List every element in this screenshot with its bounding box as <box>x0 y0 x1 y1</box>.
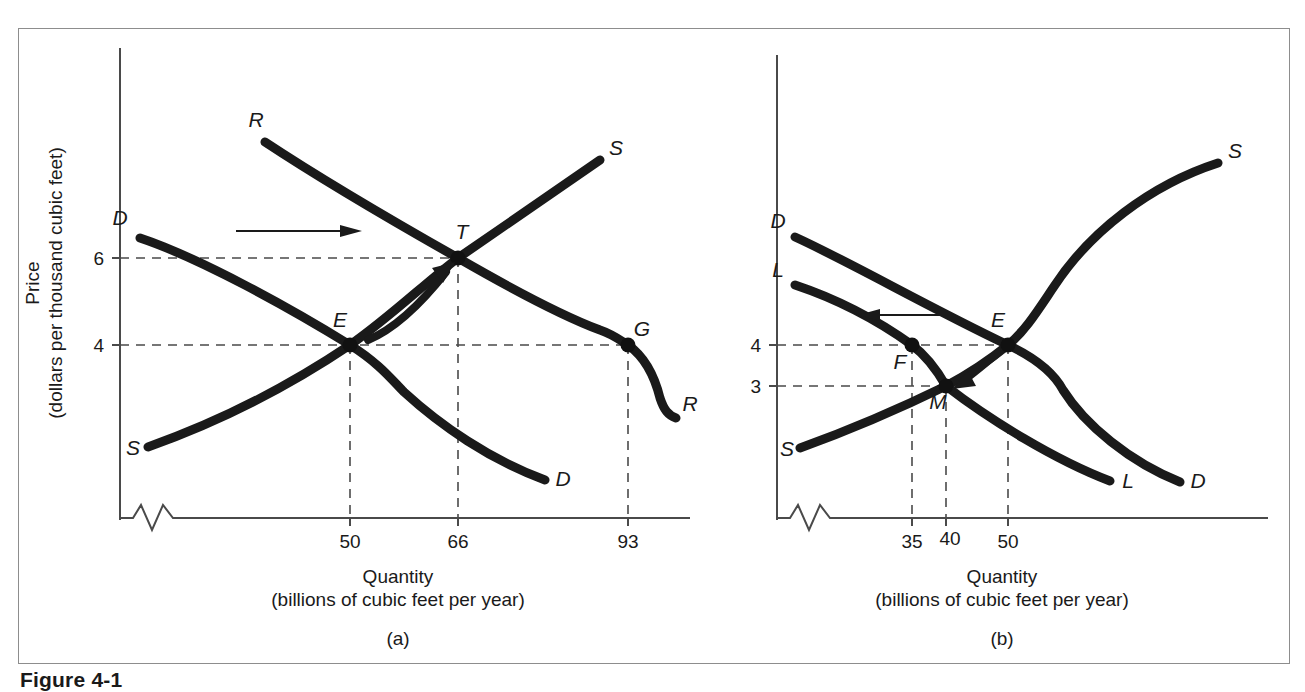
figure-frame-border <box>18 28 1290 664</box>
figure-caption: Figure 4-1 <box>20 668 122 692</box>
